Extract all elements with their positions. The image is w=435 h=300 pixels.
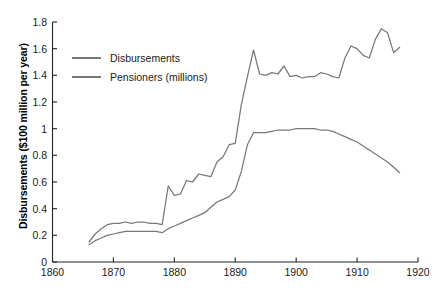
legend-label: Disbursements bbox=[110, 52, 180, 64]
legend-label: Pensioners (millions) bbox=[110, 71, 207, 83]
legend-item-disbursements: Disbursements bbox=[72, 48, 207, 67]
chart-legend: Disbursements Pensioners (millions) bbox=[72, 48, 207, 86]
plot-area bbox=[0, 0, 435, 300]
chart-container: Disbursements ($100 million per year) 00… bbox=[0, 0, 435, 300]
legend-line-icon bbox=[72, 57, 101, 59]
legend-line-icon bbox=[72, 76, 101, 78]
series-line-pensioners-millions bbox=[89, 129, 400, 245]
legend-item-pensioners: Pensioners (millions) bbox=[72, 67, 207, 86]
